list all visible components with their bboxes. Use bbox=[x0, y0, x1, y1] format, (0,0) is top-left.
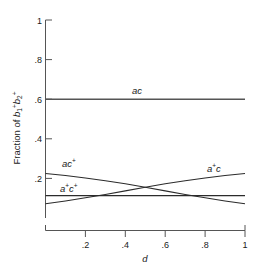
y-tick-label-1: 1 bbox=[37, 16, 42, 26]
curve-label-aplus-c: a+c bbox=[207, 162, 221, 174]
curve-label-ac-plus-base: ac bbox=[62, 158, 72, 169]
curve-label-ac-plus: ac+ bbox=[62, 157, 76, 169]
curve-label-ac-plus-sup: + bbox=[72, 157, 76, 164]
curve-label-aplus-cplus-sup2: + bbox=[74, 182, 78, 189]
x-tick-label-0.2: .2 bbox=[82, 240, 90, 250]
x-tick-label-0.8: .8 bbox=[201, 240, 209, 250]
y-axis-title-sup2: + bbox=[11, 91, 18, 95]
line-chart: 1 .8 .6 .4 .2 Fraction of b1+b2+ .2 .4 .… bbox=[0, 0, 263, 266]
y-axis-title: Fraction of b1+b2+ bbox=[11, 91, 23, 164]
x-tick-label-0.6: .6 bbox=[161, 240, 169, 250]
x-axis-title: d bbox=[142, 253, 148, 264]
svg-text:Fraction of b1+b2+: Fraction of b1+b2+ bbox=[11, 91, 23, 164]
y-tick-label-0.2: .2 bbox=[34, 174, 42, 184]
y-tick-label-0.6: .6 bbox=[34, 95, 42, 105]
curve-label-ac-text: ac bbox=[132, 85, 142, 96]
y-axis-title-prefix: Fraction of bbox=[11, 117, 22, 165]
y-tick-label-0.4: .4 bbox=[34, 134, 42, 144]
x-tick-label-1: 1 bbox=[242, 240, 247, 250]
curve-label-aplus-cplus: a+c+ bbox=[60, 182, 78, 194]
y-tick-label-0.8: .8 bbox=[34, 55, 42, 65]
x-tick-label-0.4: .4 bbox=[122, 240, 130, 250]
chart-figure: 1 .8 .6 .4 .2 Fraction of b1+b2+ .2 .4 .… bbox=[0, 0, 263, 266]
curve-label-ac: ac bbox=[132, 85, 142, 96]
curve-label-aplus-c-c: c bbox=[216, 163, 221, 174]
